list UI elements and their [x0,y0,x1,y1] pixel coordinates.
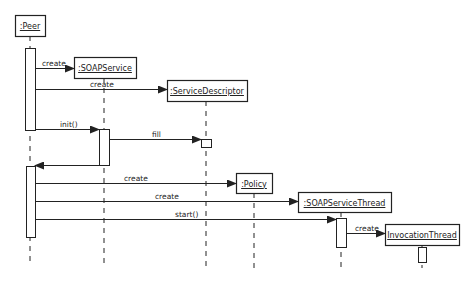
message-label-7: start() [175,210,198,219]
servicedescriptor-activation-bar [202,140,212,148]
peer-activation-bar [26,49,36,131]
message-label-1: create [90,80,114,89]
sequence-diagram: :Peer:SOAPService:ServiceDescriptor:Poli… [0,0,475,282]
invocationthread-object-label: InvocationThread [385,231,459,240]
soapservice-object-label: :SOAPService [74,64,136,73]
policy-object-label: :Policy [236,180,272,189]
peer-activation-bar [27,167,36,238]
peer-object-label: :Peer [15,22,45,31]
soapservicethread-object-label: :SOAPServiceThread [298,199,391,208]
message-label-2: init() [60,120,78,129]
object-boxes [16,16,460,246]
message-label-3: fill [152,130,161,139]
message-label-6: create [155,192,179,201]
invocationthread-activation-bar [419,248,427,263]
message-label-5: create [124,174,148,183]
servicedescriptor-object-label: :ServiceDescriptor [167,87,247,96]
soapservicethread-activation-bar [337,219,347,248]
soapservice-activation-bar [100,130,110,166]
message-label-0: create [42,59,66,68]
message-label-8: create [355,224,379,233]
